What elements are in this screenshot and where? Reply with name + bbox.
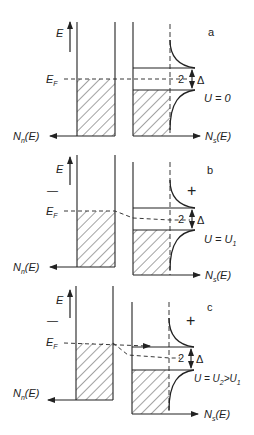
voltage-label: U = U2>U1 [194,373,241,386]
tunneling-diagram: E Nn(E) EF Ns(E) 2 Δ a U = 0 E — [0,0,254,435]
energy-label: E [56,163,64,175]
plus-sign: + [187,182,196,199]
voltage-label: U = U1 [204,233,236,247]
super-filled-states [132,370,169,414]
normal-dos-label: Nn(E) [13,130,40,144]
panel-a: E Nn(E) EF Ns(E) 2 Δ a U = 0 [13,22,231,144]
super-filled-states [133,230,170,275]
delta-label: Δ [197,214,205,226]
upper-dos-peak [170,40,195,68]
panel-b: E — Nn(E) EF Ns(E) 2 Δ b + U = U1 [13,155,236,283]
plus-sign: + [186,312,195,329]
normal-filled-states [77,211,115,267]
super-filled-states [133,90,170,136]
normal-filled-states [76,343,113,400]
lower-dos-peak [169,370,194,410]
energy-label: E [56,294,64,306]
gap-label: 2 [178,213,184,225]
voltage-label: U = 0 [204,92,231,104]
normal-dos-label: Nn(E) [13,387,40,401]
fermi-label: EF [46,73,58,87]
super-dos-label: Ns(E) [205,269,231,283]
fermi-label: EF [46,336,58,350]
lower-dos-peak [170,90,195,130]
panel-tag-a: a [208,26,215,38]
super-dos-label: Ns(E) [205,130,231,144]
fermi-label: EF [46,205,58,219]
normal-dos-label: Nn(E) [13,261,40,275]
minus-sign: — [47,184,58,196]
delta-label: Δ [196,353,204,365]
lower-dos-peak [170,230,195,270]
delta-label: Δ [197,74,205,86]
minus-sign: — [47,314,58,326]
super-dos-label: Ns(E) [204,408,230,422]
energy-label: E [56,27,64,39]
normal-filled-states [77,79,115,136]
panel-c: E — Nn(E) EF Ns(E) 2 Δ c + U = U2>U1 [13,286,241,422]
gap-label: 2 [178,73,184,85]
panel-tag-c: c [207,301,213,313]
panel-tag-b: b [207,164,213,176]
gap-label: 2 [178,352,184,364]
